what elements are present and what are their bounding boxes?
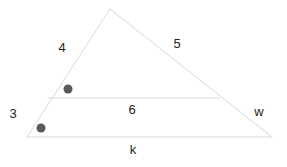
base-label-k: k <box>130 143 137 156</box>
triangle-left-side <box>27 9 110 137</box>
side-label-w: w <box>254 105 263 118</box>
side-label-4: 4 <box>58 41 65 54</box>
side-label-5: 5 <box>173 37 180 50</box>
side-label-3: 3 <box>9 107 16 120</box>
segment-label-6: 6 <box>128 103 135 116</box>
triangle-right-side <box>110 9 272 137</box>
triangle-diagram-canvas <box>0 0 287 167</box>
marked-point-lower <box>37 124 46 133</box>
geometry-figure: 4 5 3 6 w k <box>0 0 287 167</box>
marked-point-upper <box>64 85 73 94</box>
